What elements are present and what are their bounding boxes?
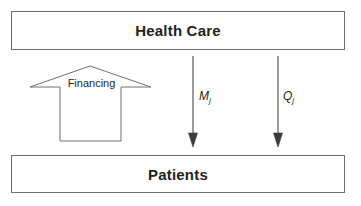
flow-label-financing: Financing	[64, 77, 119, 89]
diagram-canvas: Health Care Patients Financing Mj Qj	[0, 0, 361, 206]
m-flow-arrow-icon	[189, 56, 198, 147]
node-patients: Patients	[11, 155, 345, 193]
node-patients-label: Patients	[148, 166, 208, 183]
flow-label-m: Mj	[199, 89, 211, 105]
flow-label-q-subscript: j	[292, 96, 294, 105]
node-health-care: Health Care	[11, 11, 345, 50]
flow-label-q: Qj	[283, 89, 294, 105]
flow-label-m-subscript: j	[209, 96, 211, 105]
node-health-care-label: Health Care	[135, 22, 221, 39]
flow-label-q-symbol: Q	[283, 89, 292, 103]
flow-label-m-symbol: M	[199, 89, 209, 103]
q-flow-arrow-icon	[274, 56, 283, 147]
